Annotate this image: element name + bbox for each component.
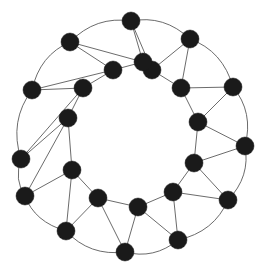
spoke-edge [32,70,113,90]
spoke-edge [70,42,143,62]
graph-node-o10[interactable] [23,81,41,99]
graph-node-i1[interactable] [172,79,190,97]
graph-node-o4[interactable] [219,191,237,209]
outer-ring-edge [190,39,233,87]
graph-node-o2[interactable] [224,78,242,96]
graph-node-i6[interactable] [89,189,107,207]
graph-node-o3[interactable] [236,137,254,155]
graph-canvas [0,0,266,275]
graph-node-i5[interactable] [129,198,147,216]
graph-node-o7[interactable] [57,222,75,240]
graph-node-i10[interactable] [104,61,122,79]
edge-layer [17,20,248,255]
graph-node-o11[interactable] [61,33,79,51]
graph-figure [0,0,266,275]
graph-node-i2[interactable] [189,113,207,131]
outer-ring-edge [70,20,131,42]
graph-node-i3[interactable] [185,154,203,172]
graph-node-o5[interactable] [169,231,187,249]
graph-node-i9[interactable] [74,79,92,97]
graph-node-i8[interactable] [59,109,77,127]
graph-node-i7[interactable] [63,161,81,179]
graph-node-o9[interactable] [12,150,30,168]
graph-node-o0[interactable] [122,12,140,30]
graph-node-o6[interactable] [116,243,134,261]
graph-node-o1[interactable] [181,30,199,48]
graph-node-i4[interactable] [164,183,182,201]
graph-node-o8[interactable] [16,187,34,205]
graph-node-i11[interactable] [134,53,152,71]
spoke-edge [21,118,68,159]
outer-ring-edge [178,200,228,240]
